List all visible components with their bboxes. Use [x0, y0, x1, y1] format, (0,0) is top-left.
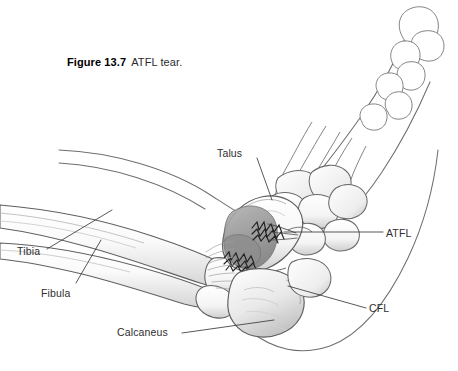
label-calcaneus: Calcaneus — [117, 326, 168, 338]
figure-number: Figure 13.7 — [67, 56, 126, 68]
figure-caption-text: ATFL tear. — [131, 56, 182, 68]
leader-line-talus — [257, 158, 272, 200]
label-cfl: CFL — [369, 302, 389, 314]
figure-page: Figure 13.7ATFL tear. Talus ATFL CFL Tib… — [0, 0, 458, 371]
label-tibia: Tibia — [17, 245, 40, 257]
label-atfl: ATFL — [386, 227, 412, 239]
label-fibula: Fibula — [41, 287, 71, 299]
cuboid-bone — [288, 259, 331, 298]
label-talus: Talus — [217, 147, 242, 159]
figure-caption: Figure 13.7ATFL tear. — [67, 56, 182, 68]
